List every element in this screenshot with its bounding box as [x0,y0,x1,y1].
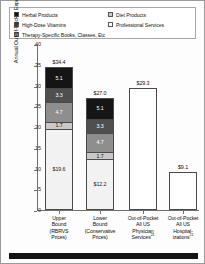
bar-segment [129,88,157,210]
y-axis-tick-mark [34,170,37,171]
bar-segment-label: $19.6 [53,167,66,172]
y-axis-tick-label: 40 [17,42,41,47]
y-axis-tick-label: 25 [17,105,41,110]
x-axis-label-line: Prices) [38,234,80,240]
x-axis-tick-mark [183,211,184,214]
x-axis-tick-mark [143,211,144,214]
legend-item: High-Dose Vitamins [14,20,112,29]
bar-column: $34.45.13.34.71.7$19.6 [45,57,73,210]
y-axis-tick-mark [34,149,37,150]
legend-item-label: High-Dose Vitamins [22,22,66,28]
legend-swatch-icon [108,22,113,27]
legend-item-label: Therapy-Specific Books, Classes, Etc [22,32,105,38]
stacked-bar [169,172,197,210]
x-axis-tick-mark [100,211,101,214]
legend-item-label: Herbal Products [22,12,58,18]
bar-column: $9.1 [169,162,197,210]
bar-segment-label: 3.3 [55,93,62,98]
x-axis-line [37,210,199,211]
x-axis-category-label: Out-of-PocketAll USPhysicianServices21 [122,215,164,241]
bar-segment-label: 1.7 [96,154,103,159]
bar-segment: 1.7 [86,152,114,159]
y-axis-tick-mark [34,66,37,67]
x-axis-category-label: UpperBound(RBRVSPrices) [38,215,80,241]
bar-column: $29.3 [129,78,157,210]
legend-swatch-icon [108,12,113,17]
bar-segment: 5.1 [45,67,73,88]
bar-segment-label: 4.7 [96,140,103,145]
y-axis-tick-mark [34,107,37,108]
bar-segment: 4.7 [86,133,114,153]
bar-segment: 3.3 [86,119,114,133]
bar-segment-label: 3.3 [96,124,103,129]
y-axis-tick-label: 0 [17,208,41,213]
legend-item: Professional Services [108,20,196,29]
bar-total-label: $29.3 [129,81,157,86]
bar-segment [169,172,197,210]
bar-segment: 5.1 [86,98,114,119]
bar-total-label: $27.0 [86,91,114,96]
y-axis-tick-label: 35 [17,63,41,68]
bar-segment-label: 4.7 [55,110,62,115]
x-axis-category-label: Out-of-PocketAll USHospital-izations21 [162,215,204,241]
bar-segment-label: $12.2 [94,182,107,187]
y-axis-tick-label: 30 [17,84,41,89]
legend-item-label: Diet Products [116,12,146,18]
bar-total-label: $9.1 [169,165,197,170]
bar-total-label: $34.4 [45,60,73,65]
bar-segment-label: 5.1 [96,106,103,111]
x-axis-label-superscript: 21 [189,233,193,237]
bar-segment-label: 1.7 [55,123,62,128]
legend-item-label: Professional Services [116,22,164,28]
y-axis-tick-mark [34,128,37,129]
bar-segment-label: 5.1 [55,76,62,81]
bar-segment: 3.3 [45,88,73,102]
legend-item: Therapy-Specific Books, Classes, Etc [14,30,112,39]
stacked-bar [129,88,157,210]
legend-column-right: Diet ProductsProfessional Services [108,10,196,30]
legend-item: Diet Products [108,10,196,19]
y-axis-tick-label: 20 [17,125,41,130]
y-axis-tick-mark [34,211,37,212]
y-axis-tick-label: 15 [17,146,41,151]
x-axis-label-superscript: 21 [151,233,155,237]
x-axis-label-line: Services21 [122,234,164,240]
bar-segment: $12.2 [86,159,114,210]
y-axis-tick-mark [34,190,37,191]
x-axis-tick-mark [59,211,60,214]
bar-segment: $19.6 [45,129,73,210]
chart-figure: Herbal ProductsHigh-Dose VitaminsTherapy… [0,0,205,264]
y-axis-tick-mark [34,87,37,88]
y-axis-tick-label: 10 [17,167,41,172]
stacked-bar: 5.13.34.71.7$12.2 [86,98,114,210]
stacked-bar: 5.13.34.71.7$19.6 [45,67,73,210]
legend-item: Herbal Products [14,10,112,19]
y-axis-tick-mark [34,45,37,46]
x-axis-label-line: Prices) [79,234,121,240]
chart-legend: Herbal ProductsHigh-Dose VitaminsTherapy… [9,7,196,39]
plot-area: Annual Out-of-Pocket Expenditures, $ in … [37,45,199,211]
bar-segment: 4.7 [45,102,73,122]
x-axis-category-label: LowerBound(ConservativePrices) [79,215,121,241]
legend-column-left: Herbal ProductsHigh-Dose VitaminsTherapy… [14,10,112,40]
x-axis-label-line: izations21 [162,234,204,240]
bar-segment: 1.7 [45,122,73,129]
bar-column: $27.05.13.34.71.7$12.2 [86,88,114,210]
y-axis-tick-label: 5 [17,188,41,193]
footer-rule [9,253,198,259]
